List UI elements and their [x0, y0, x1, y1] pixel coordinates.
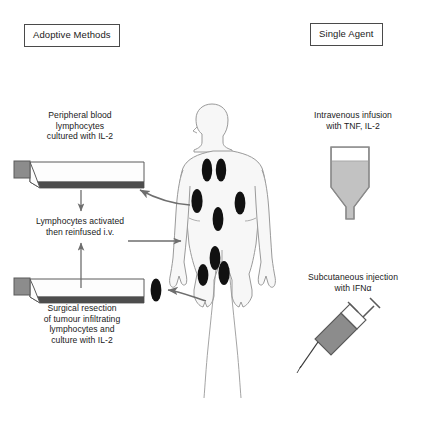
- heading-adoptive-methods: Adoptive Methods: [24, 24, 120, 47]
- flask-cap: [14, 278, 30, 295]
- tumour-nodule-icon: [191, 189, 202, 213]
- flask-cap: [14, 161, 30, 178]
- heading-single-agent: Single Agent: [310, 23, 383, 46]
- caption-peripheral-blood: Peripheral blood lymphocytes cultured wi…: [14, 110, 146, 142]
- syringe-icon: [297, 298, 380, 373]
- culture-flask-icon: [14, 161, 144, 188]
- blood-draw-arrow: [140, 190, 190, 205]
- tumour-nodule-icon: [216, 159, 226, 182]
- tumour-nodule-icon: [202, 159, 212, 182]
- tumour-nodule-icon: [213, 207, 224, 231]
- caption-subcutaneous-injection: Subcutaneous injection with IFNα: [284, 272, 422, 293]
- tumour-nodule-icon: [198, 264, 209, 286]
- tumour-nodule-icon: [218, 261, 229, 285]
- caption-surgical-resection: Surgical resection of tumour infiltratin…: [8, 303, 156, 345]
- tumour-nodule-icon: [151, 279, 162, 302]
- tumour-nodule-icon: [210, 246, 221, 270]
- resection-to-flask-arrow: [168, 290, 206, 301]
- culture-flask-icon: [14, 278, 144, 303]
- caption-intravenous-infusion: Intravenous infusion with TNF, IL-2: [288, 110, 418, 131]
- caption-lymphocytes-reinfused: Lymphocytes activated then reinfused i.v…: [6, 216, 154, 237]
- tumour-nodule-group: [191, 159, 245, 287]
- iv-bag-icon: [331, 147, 369, 219]
- tumour-nodule-icon: [235, 192, 246, 215]
- figure-canvas: Adoptive Methods Single Agent Peripheral…: [0, 0, 428, 434]
- human-body-silhouette-icon: [170, 104, 276, 398]
